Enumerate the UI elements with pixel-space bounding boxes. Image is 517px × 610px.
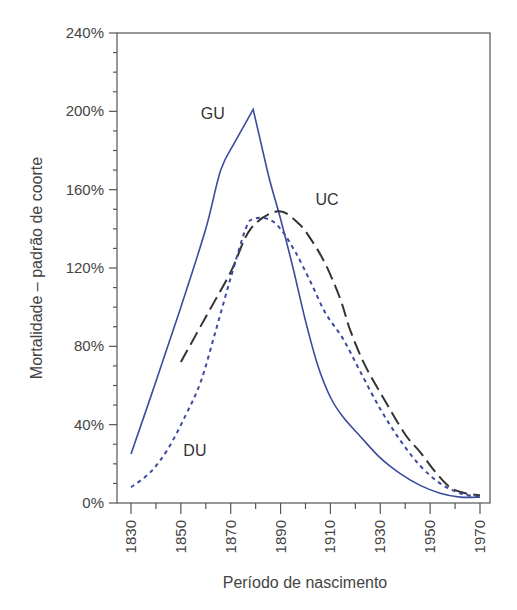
y-tick-label: 240% [66, 24, 104, 41]
series-gu-line [131, 109, 480, 497]
series-labels: GUUCDU [183, 105, 338, 459]
series-label-uc: UC [315, 191, 338, 208]
series-uc-line [181, 211, 480, 495]
x-tick-label: 1910 [321, 520, 338, 553]
x-axis: 18301850187018901910193019501970 [122, 503, 488, 553]
y-tick-label: 200% [66, 102, 104, 119]
x-tick-label: 1970 [471, 520, 488, 553]
y-axis: 0%40%80%120%160%200%240% [66, 24, 117, 511]
x-tick-label: 1930 [371, 520, 388, 553]
y-tick-label: 0% [82, 494, 104, 511]
x-tick-label: 1850 [172, 520, 189, 553]
x-tick-label: 1870 [222, 520, 239, 553]
mortality-cohort-chart: 0%40%80%120%160%200%240% 183018501870189… [0, 0, 517, 610]
y-tick-label: 80% [74, 337, 104, 354]
y-tick-label: 160% [66, 181, 104, 198]
x-tick-label: 1890 [272, 520, 289, 553]
x-axis-title: Período de nascimento [223, 574, 388, 591]
y-tick-label: 40% [74, 416, 104, 433]
x-tick-label: 1830 [122, 520, 139, 553]
series-lines [131, 109, 480, 497]
y-axis-title: Mortalidade – padrão de coorte [28, 157, 45, 379]
series-label-gu: GU [201, 105, 225, 122]
y-tick-label: 120% [66, 259, 104, 276]
x-tick-label: 1950 [421, 520, 438, 553]
series-label-du: DU [183, 442, 206, 459]
